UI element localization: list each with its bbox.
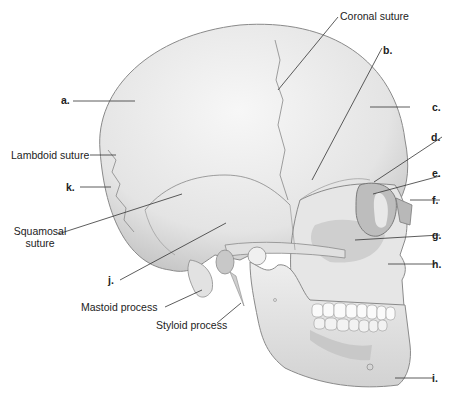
label-i: i. [432, 372, 438, 384]
skull-diagram: Coronal suture b. a. c. Lambdoid suture … [0, 0, 452, 407]
label-coronal-suture: Coronal suture [340, 10, 409, 22]
label-k: k. [66, 181, 75, 193]
label-j: j. [108, 274, 114, 286]
label-styloid-process: Styloid process [156, 319, 227, 331]
label-h: h. [432, 258, 441, 270]
label-c: c. [432, 101, 441, 113]
mastoid [188, 260, 213, 297]
label-d: d. [431, 131, 440, 143]
label-squamosal-line2: suture [25, 237, 54, 249]
label-a: a. [61, 94, 70, 106]
label-mastoid-process: Mastoid process [81, 301, 157, 313]
label-lambdoid-suture: Lambdoid suture [11, 149, 89, 161]
label-squamosal-suture: Squamosal suture [12, 225, 68, 249]
label-squamosal-line1: Squamosal [14, 225, 67, 237]
label-e: e. [432, 167, 441, 179]
styloid [230, 272, 244, 306]
label-f: f. [432, 194, 438, 206]
label-b: b. [383, 44, 392, 56]
label-g: g. [432, 229, 441, 241]
skull-illustration [0, 0, 452, 407]
